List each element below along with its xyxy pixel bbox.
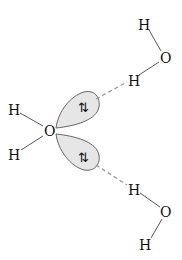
bottom-hydrogen-bottom: H [139,237,151,253]
central-oxygen: O [44,123,55,139]
top-hydrogen-bonded: H [128,73,140,89]
bond-central-h-lower [21,136,43,150]
electron-pair-upper: ⇅ [78,100,89,115]
hydrogen-bond-diagram: ⇅ ⇅ O H H H O H H O H [0,0,182,260]
bond-bottom-h-bonded [140,193,160,207]
lone-pair-lower: ⇅ [56,134,99,170]
top-hydrogen-top: H [138,17,150,33]
bond-central-h-upper [20,113,43,126]
bottom-hydrogen-bonded: H [128,182,140,198]
electron-pair-lower: ⇅ [78,150,89,165]
bond-top-h-top [149,30,161,51]
top-oxygen: O [160,50,171,66]
bond-top-h-bonded [139,62,159,75]
hydrogen-bond-lower [96,165,127,185]
hydrogen-bond-upper [96,82,127,99]
lone-pair-upper: ⇅ [56,91,99,128]
central-hydrogen-upper: H [8,102,20,118]
bottom-oxygen: O [160,204,171,220]
bond-bottom-h-bottom [151,219,162,238]
central-hydrogen-lower: H [8,147,20,163]
